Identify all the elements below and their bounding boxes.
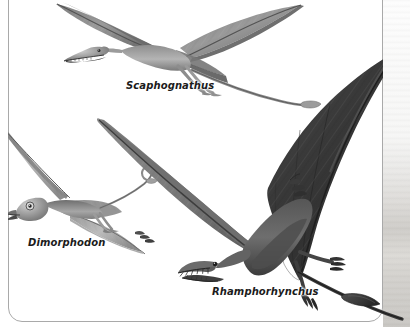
species-label-scaphognathus: Scaphognathus — [126, 80, 214, 91]
illustration-card — [8, 0, 383, 322]
species-label-rhamphorhynchus: Rhamphorhynchus — [212, 286, 318, 297]
screenshot-stage: Scaphognathus Dimorphodon Rhamphorhynchu… — [0, 0, 410, 327]
illustration-card-inner — [9, 0, 382, 321]
species-label-dimorphodon: Dimorphodon — [28, 237, 105, 248]
background-texture — [383, 0, 410, 327]
